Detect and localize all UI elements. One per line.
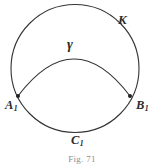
arc-label-C1-subscript: 1	[80, 139, 84, 148]
point-marker-A1	[16, 94, 20, 98]
point-label-A1-letter: A	[5, 98, 13, 112]
arc-label-C1: C1	[71, 134, 84, 148]
point-label-B1-letter: B	[136, 98, 144, 112]
arc-label-gamma: γ	[67, 38, 73, 52]
point-label-A1: A1	[5, 99, 18, 113]
arc-gamma	[18, 59, 130, 96]
circle-label-K: K	[118, 13, 127, 26]
figure-caption: Fig. 71	[0, 154, 164, 164]
point-label-B1-subscript: 1	[145, 104, 149, 113]
figure-container: K γ A1 B1 C1 Fig. 71	[0, 0, 164, 164]
point-marker-B1	[128, 94, 132, 98]
point-label-B1: B1	[136, 99, 149, 113]
arc-label-C1-letter: C	[71, 133, 79, 147]
point-label-A1-subscript: 1	[14, 104, 18, 113]
